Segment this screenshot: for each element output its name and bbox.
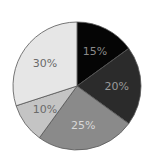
pie-slice-label: 10% — [33, 103, 57, 116]
pie-slice-label: 30% — [33, 57, 57, 70]
pie-slice-label: 15% — [83, 45, 107, 58]
pie-chart: 15%20%25%10%30% — [0, 0, 149, 161]
pie-slice-label: 20% — [104, 80, 128, 93]
pie-slice-label: 25% — [71, 119, 95, 132]
pie-chart-canvas: 15%20%25%10%30% — [0, 0, 149, 161]
